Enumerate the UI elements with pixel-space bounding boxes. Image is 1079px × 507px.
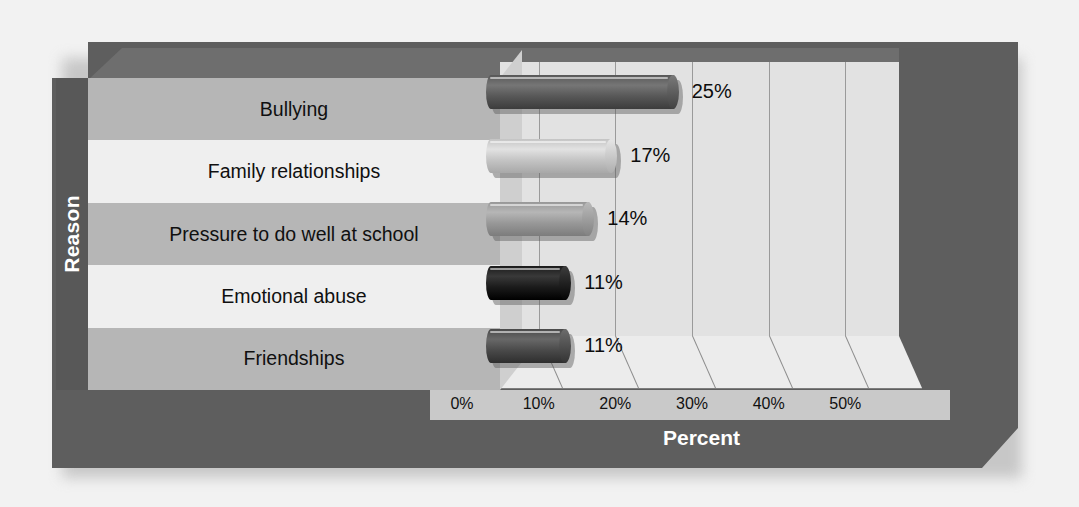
category-label-text: Bullying [260,98,328,121]
plot-floor-front-edge [485,388,922,389]
bar-value-label: 25% [692,80,732,103]
chart-figure: Reason BullyingFamily relationshipsPress… [0,0,1079,507]
x-axis-tick-strip: 0%10%20%30%40%50% [430,390,950,420]
x-tick-label: 0% [450,395,473,413]
bar-highlight [490,268,560,270]
category-label-text: Family relationships [208,160,380,183]
x-axis-title-band: Percent [88,420,950,456]
bar-4 [486,266,570,300]
bar-value-label: 14% [607,207,647,230]
x-tick-label: 50% [829,395,861,413]
bar-row: 17% [462,126,922,190]
bar-value-label: 17% [630,144,670,167]
bar-value-label: 11% [584,271,623,294]
bar-row: 11% [462,316,922,380]
x-tick-label: 10% [523,395,555,413]
category-wall: Reason BullyingFamily relationshipsPress… [88,78,500,390]
bar-highlight [490,331,560,333]
category-band-list: BullyingFamily relationshipsPressure to … [88,78,500,390]
bar-3 [486,202,593,236]
y-axis-title: Reason [56,78,88,390]
category-wall-top-bevel [88,48,500,80]
bar-1 [486,75,678,109]
bar-end-cap [667,75,679,109]
bar-row: 14% [462,189,922,253]
category-label-text: Friendships [244,347,345,370]
bar-highlight [490,204,583,206]
x-axis-title-text: Percent [663,426,740,450]
category-label-text: Emotional abuse [221,285,366,308]
x-tick-label: 40% [753,395,785,413]
bar-highlight [490,141,606,143]
x-tick-label: 30% [676,395,708,413]
bar-row: 11% [462,253,922,317]
bar-2 [486,139,616,173]
bar-highlight [490,77,668,79]
category-label-1: Bullying [88,78,500,140]
bar-5 [486,329,570,363]
category-label-2: Family relationships [88,140,500,202]
x-tick-label: 20% [599,395,631,413]
category-label-4: Emotional abuse [88,265,500,327]
bar-value-label: 11% [584,334,623,357]
category-label-3: Pressure to do well at school [88,203,500,265]
bars-layer: 25%17%14%11%11% [462,62,922,380]
category-label-5: Friendships [88,328,500,390]
y-axis-title-text: Reason [60,195,84,273]
category-label-text: Pressure to do well at school [169,223,418,246]
bar-row: 25% [462,62,922,126]
